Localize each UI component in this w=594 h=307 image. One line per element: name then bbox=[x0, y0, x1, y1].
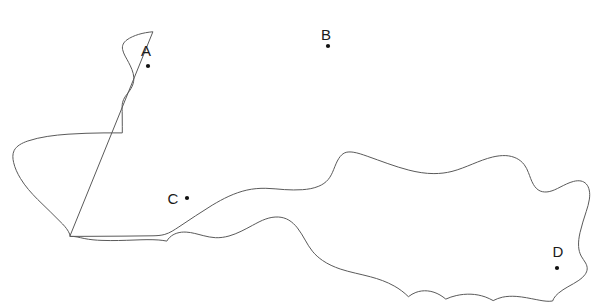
site-label-a: A bbox=[141, 42, 151, 59]
map-canvas: A B C D bbox=[0, 0, 594, 307]
site-marker-b[interactable] bbox=[326, 44, 330, 48]
site-label-b: B bbox=[321, 26, 331, 43]
region-outline-map: A B C D bbox=[0, 0, 594, 307]
region-boundary-path bbox=[13, 32, 590, 302]
site-marker-c[interactable] bbox=[185, 196, 189, 200]
site-label-c: C bbox=[168, 190, 179, 207]
site-label-d: D bbox=[553, 243, 564, 260]
site-marker-a[interactable] bbox=[146, 64, 150, 68]
site-marker-d[interactable] bbox=[555, 266, 559, 270]
